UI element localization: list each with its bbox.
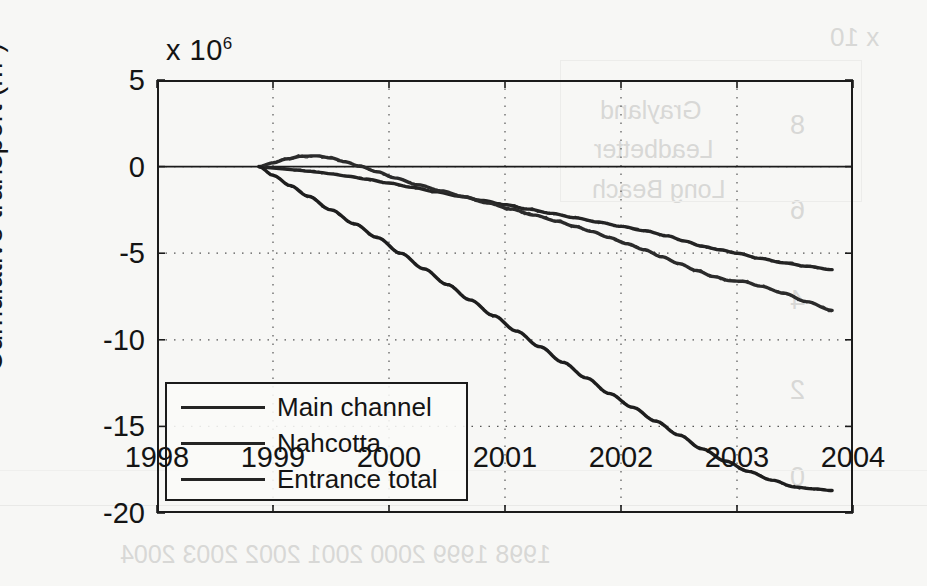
y-tick-label: 0 — [25, 150, 145, 183]
y-tick-label: -5 — [25, 237, 145, 270]
x-tick-label: 2004 — [783, 441, 923, 474]
legend-swatch-entrance-total — [181, 478, 265, 481]
bleed-through-text: 1998 1999 2000 2001 2002 2003 2004 — [120, 540, 551, 569]
y-tick-label: 5 — [25, 64, 145, 97]
legend-label-main-channel: Main channel — [277, 392, 432, 423]
legend-item-main-channel: Main channel — [167, 388, 466, 427]
legend-swatch-main-channel — [181, 406, 265, 409]
y-tick-label: -10 — [25, 323, 145, 356]
bleed-through-text: x 10 — [830, 22, 879, 53]
y-axis-title: Cumulative transport (m3) — [0, 0, 9, 443]
y-axis-exponent-label: x 106 — [166, 34, 233, 67]
figure-page: x 1086420GraylandLeadbetterLong BeachCum… — [0, 0, 927, 586]
y-tick-label: -20 — [25, 497, 145, 530]
y-tick-label: -15 — [25, 410, 145, 443]
